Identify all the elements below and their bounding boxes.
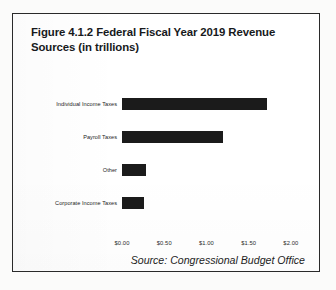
bar-row: Individual Income Taxes <box>13 98 321 110</box>
x-axis-tick-label: $1.50 <box>229 238 269 248</box>
bar-category-label: Individual Income Taxes <box>13 98 117 110</box>
bar-track <box>122 164 312 176</box>
bar-track <box>122 131 312 143</box>
bar-track <box>122 197 312 209</box>
chart-plot-area: Individual Income TaxesPayroll TaxesOthe… <box>13 88 321 238</box>
figure-frame: Figure 4.1.2 Federal Fiscal Year 2019 Re… <box>12 13 320 272</box>
x-axis-tick-label: $0.50 <box>144 238 184 248</box>
x-axis: $0.00$0.50$1.00$1.50$2.00 <box>13 238 321 252</box>
bar <box>122 164 146 176</box>
bar <box>122 197 144 209</box>
bar-track <box>122 98 312 110</box>
x-axis-tick-label: $0.00 <box>102 238 142 248</box>
bar-row: Corporate Income Taxes <box>13 197 321 209</box>
chart-title: Figure 4.1.2 Federal Fiscal Year 2019 Re… <box>31 25 299 55</box>
bar-category-label: Corporate Income Taxes <box>13 197 117 209</box>
bar-row: Other <box>13 164 321 176</box>
bar <box>122 131 223 143</box>
figure-root: Figure 4.1.2 Federal Fiscal Year 2019 Re… <box>0 0 336 290</box>
bar-category-label: Other <box>13 164 117 176</box>
source-note: Source: Congressional Budget Office <box>131 254 305 266</box>
x-axis-tick-label: $2.00 <box>271 238 311 248</box>
bar-row: Payroll Taxes <box>13 131 321 143</box>
bar <box>122 98 267 110</box>
x-axis-tick-label: $1.00 <box>186 238 226 248</box>
bar-category-label: Payroll Taxes <box>13 131 117 143</box>
